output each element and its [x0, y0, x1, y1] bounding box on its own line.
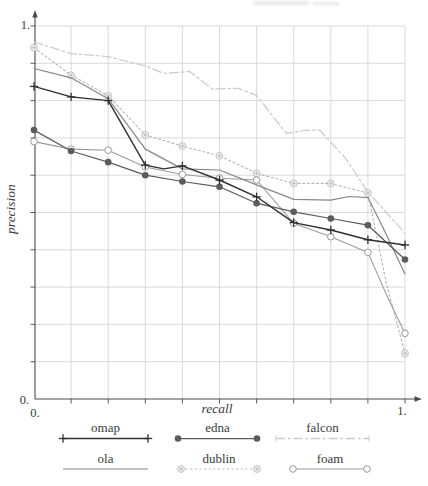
- y-axis-title: precision: [3, 184, 18, 235]
- precision-recall-chart: omapednafalconoladublinfoam 1. 0. 0. 1. …: [0, 0, 428, 486]
- filled-circle-marker-icon: [142, 172, 149, 179]
- filled-circle-marker-icon: [290, 208, 297, 215]
- open-circle-marker-icon: [105, 147, 112, 154]
- filled-circle-marker-icon: [402, 256, 409, 263]
- x-axis-arrow-icon: [415, 396, 423, 401]
- filled-circle-marker-icon: [216, 183, 223, 190]
- open-circle-marker-icon: [290, 466, 297, 473]
- filled-circle-marker-icon: [179, 178, 186, 185]
- open-circle-marker-icon: [402, 330, 409, 337]
- open-circle-marker-icon: [253, 177, 260, 184]
- filled-circle-marker-icon: [365, 222, 372, 229]
- x-min-tick-label: 0.: [30, 406, 39, 420]
- open-circle-marker-icon: [31, 138, 38, 145]
- legend-dublin-label: dublin: [202, 451, 236, 466]
- y-axis-arrow-icon: [32, 10, 37, 18]
- legend-omap-label: omap: [91, 420, 120, 435]
- y-max-tick-label: 1.: [21, 18, 30, 32]
- x-max-tick-label: 1.: [397, 404, 406, 418]
- filled-circle-marker-icon: [175, 435, 182, 442]
- legend-foam-label: foam: [317, 451, 344, 466]
- legend-edna-label: edna: [205, 420, 230, 435]
- axes: [31, 10, 423, 404]
- open-circle-marker-icon: [328, 233, 335, 240]
- filled-circle-marker-icon: [328, 215, 335, 222]
- x-axis-title: recall: [202, 401, 233, 416]
- open-circle-marker-icon: [365, 249, 372, 256]
- filled-circle-marker-icon: [68, 148, 75, 155]
- filled-circle-marker-icon: [254, 435, 261, 442]
- legend: omapednafalconoladublinfoam: [59, 420, 371, 472]
- y-min-tick-label: 0.: [20, 393, 29, 407]
- precision-recall-figure: omapednafalconoladublinfoam 1. 0. 0. 1. …: [0, 0, 428, 486]
- open-circle-marker-icon: [179, 171, 186, 178]
- open-circle-marker-icon: [364, 466, 371, 473]
- legend-ola-label: ola: [98, 451, 114, 466]
- filled-circle-marker-icon: [105, 159, 112, 166]
- filled-circle-marker-icon: [31, 127, 38, 134]
- gridlines: [35, 26, 405, 399]
- legend-falcon-label: falcon: [306, 420, 339, 435]
